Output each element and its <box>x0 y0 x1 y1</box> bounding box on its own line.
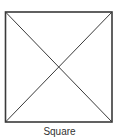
square-diagram <box>0 0 119 126</box>
shape-caption: Square <box>0 126 119 138</box>
square-figure: Square <box>0 0 119 139</box>
